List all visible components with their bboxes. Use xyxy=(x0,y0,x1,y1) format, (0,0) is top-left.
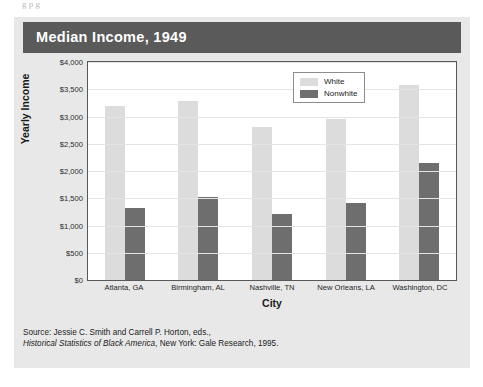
legend-label: White xyxy=(324,77,344,86)
plot-area: WhiteNonwhite xyxy=(87,61,457,281)
legend-swatch xyxy=(300,78,318,86)
y-axis-tick-label: $0 xyxy=(37,276,83,285)
gridline xyxy=(88,89,456,90)
bar-white xyxy=(399,85,419,280)
bar-nonwhite xyxy=(125,208,145,280)
y-axis-tick-label: $2,000 xyxy=(37,167,83,176)
gridline xyxy=(88,226,456,227)
y-axis-tick-label: $3,500 xyxy=(37,85,83,94)
y-axis-tick-label: $3,000 xyxy=(37,112,83,121)
x-axis-tick-label: Birmingham, AL xyxy=(161,283,235,292)
x-axis-tick-label: Washington, DC xyxy=(383,283,457,292)
chart-card: Median Income, 1949 Yearly Income $4,000… xyxy=(14,17,470,368)
y-axis-tick-label: $1,000 xyxy=(37,221,83,230)
page-bleed-text: g p g xyxy=(22,0,302,9)
source-publisher: , New York: Gale Research, 1995. xyxy=(155,339,278,348)
bar-nonwhite xyxy=(346,203,366,280)
y-axis-tick-label: $1,500 xyxy=(37,194,83,203)
bar-nonwhite xyxy=(198,197,218,280)
x-axis-tick-label: New Orleans, LA xyxy=(309,283,383,292)
source-caption: Source: Jessie C. Smith and Carrell P. H… xyxy=(23,327,453,349)
x-axis-tick-label: Nashville, TN xyxy=(235,283,309,292)
y-axis-tick-label: $2,500 xyxy=(37,139,83,148)
bar-nonwhite xyxy=(272,214,292,280)
page-title: Median Income, 1949 xyxy=(36,29,187,45)
gridline xyxy=(88,171,456,172)
chart-area: Yearly Income $4,000$3,500$3,000$2,500$2… xyxy=(23,61,461,323)
legend-label: Nonwhite xyxy=(324,89,357,98)
y-axis-tick-label: $4,000 xyxy=(37,58,83,67)
x-axis-label: City xyxy=(87,297,457,309)
source-line-2: Historical Statistics of Black America, … xyxy=(23,338,453,349)
gridline xyxy=(88,117,456,118)
chart-title-bar: Median Income, 1949 xyxy=(23,22,461,53)
legend-item: White xyxy=(300,77,357,86)
y-axis-label: Yearly Income xyxy=(19,49,31,169)
gridline xyxy=(88,144,456,145)
chart-page: g p g Median Income, 1949 Yearly Income … xyxy=(0,0,483,387)
bar-white xyxy=(252,127,272,280)
x-axis-ticks: Atlanta, GABirmingham, ALNashville, TNNe… xyxy=(87,283,457,292)
y-axis-ticks: $4,000$3,500$3,000$2,500$2,000$1,500$1,0… xyxy=(37,61,83,281)
legend-item: Nonwhite xyxy=(300,89,357,98)
bar-nonwhite xyxy=(419,163,439,280)
source-line-1: Source: Jessie C. Smith and Carrell P. H… xyxy=(23,327,453,338)
x-axis-tick-label: Atlanta, GA xyxy=(87,283,161,292)
gridline xyxy=(88,253,456,254)
bar-white xyxy=(105,106,125,280)
source-title-italic: Historical Statistics of Black America xyxy=(23,339,155,348)
gridline xyxy=(88,62,456,63)
gridline xyxy=(88,198,456,199)
legend-swatch xyxy=(300,90,318,98)
chart-legend: WhiteNonwhite xyxy=(293,72,365,103)
y-axis-tick-label: $500 xyxy=(37,248,83,257)
